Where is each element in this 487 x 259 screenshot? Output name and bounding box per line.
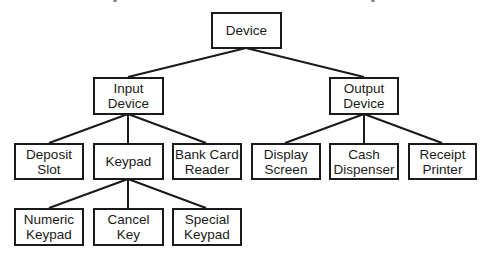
edge-input-cardreader xyxy=(128,114,206,143)
node-cash-dispenser: Cash Dispenser xyxy=(329,143,399,180)
edge-device-input xyxy=(128,48,246,77)
node-label: Slot xyxy=(37,162,60,177)
edge-keypad-numeric xyxy=(49,179,128,208)
node-label: Device xyxy=(108,96,149,111)
node-label: Cash xyxy=(348,147,380,162)
node-label: Device xyxy=(343,96,384,111)
node-label: Keypad xyxy=(184,227,230,242)
node-label: Output xyxy=(344,81,385,96)
node-label: Device xyxy=(226,23,267,38)
node-label: Deposit xyxy=(26,147,72,162)
node-input-device: Input Device xyxy=(93,77,164,115)
node-label: Reader xyxy=(185,162,229,177)
node-receipt-printer: Receipt Printer xyxy=(408,143,477,180)
node-bank-card-reader: Bank Card Reader xyxy=(172,143,242,180)
edge-output-display xyxy=(285,114,364,143)
node-output-device: Output Device xyxy=(329,77,399,115)
edge-device-output xyxy=(246,48,364,77)
device-hierarchy-diagram: Device Input Device Output Device Deposi… xyxy=(0,0,487,259)
node-label: Special xyxy=(185,212,229,227)
node-cancel-key: Cancel Key xyxy=(93,208,164,246)
node-label: Screen xyxy=(265,162,308,177)
node-label: Display xyxy=(264,147,308,162)
node-keypad: Keypad xyxy=(93,143,164,180)
node-label: Keypad xyxy=(106,154,152,169)
edge-input-deposit xyxy=(49,114,128,143)
node-special-keypad: Special Keypad xyxy=(172,208,242,246)
node-label: Dispenser xyxy=(334,162,395,177)
node-label: Receipt xyxy=(420,147,466,162)
edge-keypad-special xyxy=(128,179,206,208)
node-label: Printer xyxy=(423,162,463,177)
node-label: Bank Card xyxy=(175,147,239,162)
node-label: Numeric xyxy=(24,212,74,227)
node-device: Device xyxy=(211,12,282,49)
node-numeric-keypad: Numeric Keypad xyxy=(14,208,84,246)
node-label: Cancel xyxy=(107,212,149,227)
node-label: Key xyxy=(117,227,140,242)
node-label: Keypad xyxy=(26,227,72,242)
edge-output-receipt xyxy=(364,114,442,143)
node-display-screen: Display Screen xyxy=(251,143,321,180)
node-label: Input xyxy=(113,81,143,96)
node-deposit-slot: Deposit Slot xyxy=(14,143,84,180)
